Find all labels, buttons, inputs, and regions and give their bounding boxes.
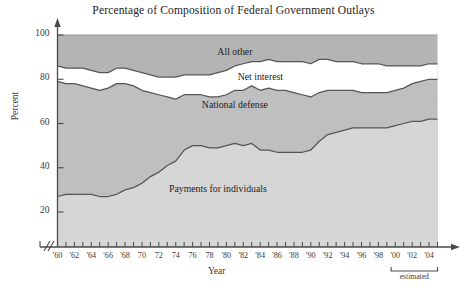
- y-tick-label: 100: [24, 28, 50, 38]
- y-tick-label: 60: [24, 117, 50, 127]
- y-tick-label: 20: [24, 205, 50, 215]
- x-axis-title: Year: [208, 266, 226, 276]
- band-label-all-other: All other: [217, 46, 252, 57]
- x-axis-arrow: [451, 244, 460, 250]
- y-tick-label: 40: [24, 161, 50, 171]
- estimated-bracket: [391, 267, 437, 271]
- figure-container: Percentage of Composition of Federal Gov…: [0, 0, 467, 299]
- estimated-annotation-label: estimated: [383, 272, 445, 281]
- y-tick-label: 80: [24, 72, 50, 82]
- chart-title: Percentage of Composition of Federal Gov…: [0, 4, 467, 16]
- y-axis-arrow: [54, 18, 60, 27]
- band-label-net-interest: Net interest: [238, 71, 283, 82]
- y-axis-title: Percent: [10, 76, 20, 136]
- x-tick-label: '04: [418, 251, 440, 260]
- band-label-national-defense: National defense: [202, 99, 268, 110]
- band-label-payments-for-individuals: Payments for individuals: [169, 183, 267, 194]
